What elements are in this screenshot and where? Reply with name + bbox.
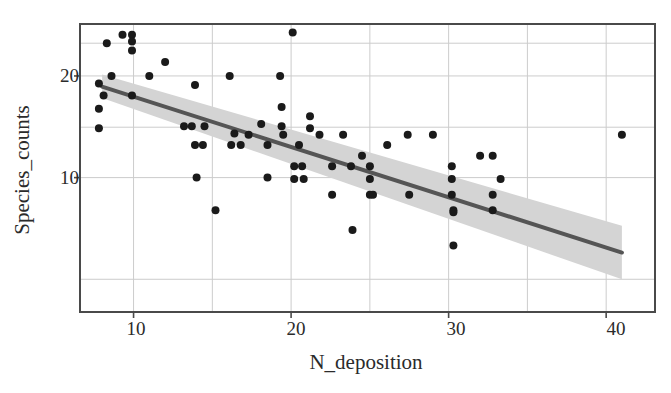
data-point: [226, 72, 234, 80]
data-point: [290, 162, 298, 170]
data-point: [119, 31, 127, 39]
data-point: [448, 191, 456, 199]
confidence-band-area: [102, 75, 622, 280]
data-point: [289, 29, 297, 37]
data-point: [328, 191, 336, 199]
data-point: [347, 162, 355, 170]
data-point: [306, 124, 314, 132]
data-point: [257, 120, 265, 128]
data-point: [449, 241, 457, 249]
confidence-band: [102, 75, 622, 280]
regression-line-path: [102, 87, 622, 253]
y-tick-label-20: 20: [60, 65, 79, 87]
data-point: [489, 152, 497, 160]
data-point: [405, 191, 413, 199]
data-point: [100, 92, 108, 100]
data-point: [191, 141, 199, 149]
data-point: [290, 175, 298, 183]
data-point: [103, 39, 111, 47]
data-point: [279, 131, 287, 139]
scatter-plot-canvas: [0, 0, 671, 393]
data-point: [448, 175, 456, 183]
data-point: [264, 174, 272, 182]
regression-line: [102, 87, 622, 253]
data-point: [95, 105, 103, 113]
data-point: [316, 131, 324, 139]
data-point: [237, 141, 245, 149]
data-point: [193, 174, 201, 182]
data-point: [429, 131, 437, 139]
data-point: [476, 152, 484, 160]
data-point: [278, 103, 286, 111]
data-point: [95, 80, 103, 88]
data-point: [227, 141, 235, 149]
data-point: [404, 131, 412, 139]
data-point: [489, 191, 497, 199]
data-point: [449, 208, 457, 216]
data-point: [128, 38, 136, 46]
data-point: [188, 122, 196, 130]
data-point: [366, 175, 374, 183]
data-point: [245, 131, 253, 139]
data-point: [369, 191, 377, 199]
x-tick-label-20: 20: [287, 318, 306, 340]
data-point: [339, 131, 347, 139]
data-point: [278, 122, 286, 130]
x-tick-label-30: 30: [447, 318, 466, 340]
data-point: [95, 124, 103, 132]
data-point: [128, 92, 136, 100]
data-point: [161, 58, 169, 66]
y-tick-label-10: 10: [60, 167, 79, 189]
data-point: [199, 141, 207, 149]
data-point: [191, 81, 199, 89]
data-point: [108, 72, 116, 80]
data-point: [306, 112, 314, 120]
data-point: [295, 141, 303, 149]
data-point: [300, 175, 308, 183]
data-point: [358, 152, 366, 160]
data-point: [201, 122, 209, 130]
data-point: [264, 141, 272, 149]
data-point: [230, 130, 238, 138]
data-point: [276, 72, 284, 80]
data-point: [448, 162, 456, 170]
x-tick-label-10: 10: [127, 318, 146, 340]
data-point: [128, 46, 136, 54]
chart-figure: 10 20 30 40 10 20 N_deposition Species_c…: [0, 0, 671, 393]
data-point: [489, 206, 497, 214]
data-point: [349, 226, 357, 234]
data-point: [145, 72, 153, 80]
x-tick-label-40: 40: [607, 318, 626, 340]
data-point: [497, 175, 505, 183]
data-point: [212, 206, 220, 214]
data-point: [383, 141, 391, 149]
data-point: [366, 162, 374, 170]
data-point: [180, 122, 188, 130]
data-point: [328, 162, 336, 170]
x-axis-label: N_deposition: [309, 350, 422, 375]
data-point: [618, 131, 626, 139]
data-point: [298, 162, 306, 170]
y-axis-label: Species_counts: [10, 105, 35, 234]
